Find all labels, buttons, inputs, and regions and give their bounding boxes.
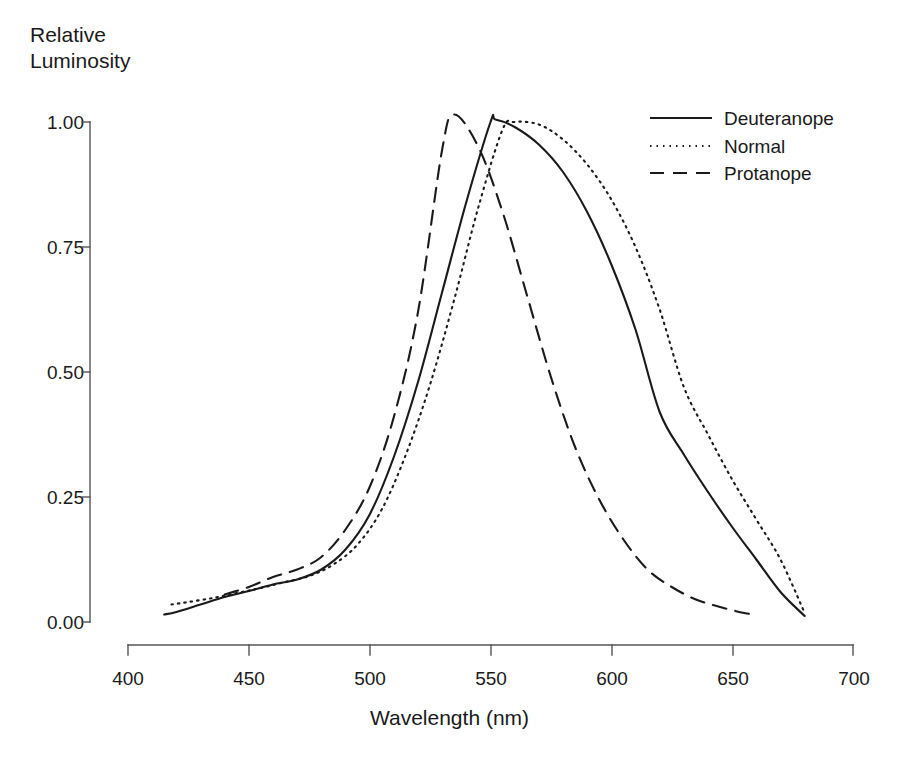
series-line-normal (172, 121, 805, 613)
data-series-group (164, 114, 804, 616)
axis-lines (82, 122, 853, 655)
series-line-deuteranope (164, 115, 804, 616)
series-line-protanope (225, 114, 757, 614)
legend-swatches (650, 118, 712, 173)
plot-canvas (0, 0, 899, 765)
chart-figure: Relative Luminosity Wavelength (nm) 1.00… (0, 0, 899, 765)
